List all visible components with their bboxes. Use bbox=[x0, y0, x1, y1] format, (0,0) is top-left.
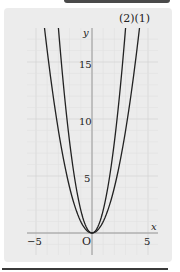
x-tick-neg5: −5 bbox=[27, 236, 42, 247]
x-axis-label: x bbox=[151, 221, 157, 232]
y-tick-10: 10 bbox=[79, 116, 92, 127]
y-tick-15: 15 bbox=[79, 59, 92, 70]
curve-labels: (2)(1) bbox=[119, 12, 150, 25]
y-axis-label: y bbox=[82, 27, 89, 38]
x-tick-5: 5 bbox=[144, 236, 150, 247]
origin-label: O bbox=[82, 235, 91, 248]
y-tick-5: 5 bbox=[84, 173, 90, 184]
parabola-chart: (2)(1) y x 15 10 5 −5 5 O bbox=[0, 0, 180, 272]
